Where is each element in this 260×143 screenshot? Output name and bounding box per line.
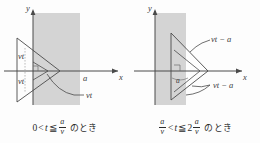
caption-left-rel2: ≦ [49,122,57,133]
shaded-band-right [155,13,186,105]
vt-minus-a-upper-leader [190,43,202,52]
caption-right-frac1-den: v [160,128,166,136]
caption-left: 0 < t ≦ a v のとき [0,112,130,143]
caption-right-suffix: のとき [204,121,232,134]
label-vt-minus-a-lower: vt − a [213,80,233,90]
caption-right-var: t [174,123,177,133]
vt-minus-a-upper-leader-line [202,40,210,43]
x-axis-arrow-right [236,69,242,74]
label-a-axis-left: a [83,73,87,83]
caption-left-fraction: a v [59,118,66,136]
caption-right-frac2-num: a [194,118,200,126]
caption-right-fraction-2: a v [193,118,200,136]
label-vt-minus-a-upper: vt − a [211,34,231,44]
label-y-axis-left: y [25,3,30,13]
label-y-axis-right: y [147,3,152,13]
diagram-right: vt − a vt − a a y x [130,0,260,112]
caption-right-rel1: < [168,123,174,133]
caption-right-fraction-1: a v [159,118,166,136]
label-vt-lower: vt [18,76,25,86]
shaded-band-left [33,13,80,105]
caption-right-coef: 2 [188,123,193,133]
caption-right-rel2: ≦ [178,122,186,133]
figure-page: vt vt a vt y x 0 < t ≦ a v のとき [0,0,260,143]
caption-right-frac1-num: a [159,118,165,126]
label-x-axis-right: x [242,72,247,82]
label-a-near-origin: a [176,76,180,85]
caption-left-frac-den: v [60,128,66,136]
caption-left-suffix: のとき [70,121,98,134]
caption-left-frac-num: a [59,118,65,126]
label-vt-callout: vt [86,90,93,100]
y-axis-arrow-right [153,9,158,15]
caption-right-frac2-den: v [194,128,200,136]
y-axis-arrow-left [31,9,36,15]
label-vt-upper: vt [18,51,25,61]
caption-right: a v < t ≦ 2 a v のとき [130,112,260,143]
vt-minus-a-lower-leader-1 [192,85,210,87]
caption-left-lhs: 0 [32,123,37,133]
x-axis-arrow-left [112,69,118,74]
panel-right: vt − a vt − a a y x a v < t ≦ 2 a v のとき [130,0,260,143]
diagram-left: vt vt a vt y x [0,0,130,112]
label-x-axis-left: x [118,72,123,82]
panel-left: vt vt a vt y x 0 < t ≦ a v のとき [0,0,130,143]
caption-left-var: t [45,123,48,133]
caption-left-rel1: < [38,123,44,133]
